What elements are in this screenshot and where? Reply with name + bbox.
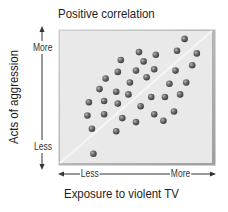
x-axis-label: Exposure to violent TV [64,186,179,201]
data-point [181,36,188,43]
y-tick-more: More [33,41,52,54]
data-point [115,69,122,76]
data-point [90,151,97,158]
data-point [113,88,120,95]
data-point [101,111,108,118]
chart-title: Positive correlation [58,6,155,21]
plot-area [58,29,216,166]
data-point [172,67,179,74]
data-point [189,62,196,69]
data-point [151,66,158,73]
data-point [118,57,125,64]
y-tick-less: Less [34,140,52,153]
data-point [86,99,93,106]
data-point [183,79,190,86]
data-point [140,58,147,65]
data-point [171,108,178,115]
data-point [194,50,201,57]
y-axis-label: Acts of aggression [6,50,21,144]
data-point [133,67,140,74]
x-tick-more: More [170,168,191,179]
data-point [133,119,140,126]
data-point [101,98,108,105]
data-point [119,115,126,122]
data-point [125,91,132,98]
data-point [143,74,150,81]
data-point [160,118,167,125]
data-point [127,79,134,86]
data-point [137,103,144,110]
data-point [89,125,96,132]
x-tick-less: Less [80,168,100,179]
data-point [151,111,158,118]
data-point [136,49,143,56]
data-point [102,75,109,82]
data-point [166,81,173,88]
data-point [162,94,169,101]
data-point [153,52,160,59]
data-point [174,48,181,55]
data-point [84,112,91,119]
data-point [115,100,122,107]
data-point [148,94,155,101]
data-point [177,91,184,98]
data-point [96,86,103,93]
data-point [113,128,120,135]
